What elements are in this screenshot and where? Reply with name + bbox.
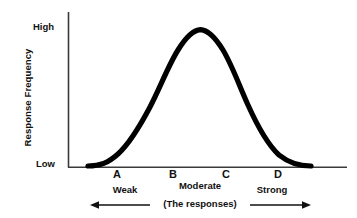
x-category-d: D: [263, 168, 293, 180]
y-tick-low: Low: [36, 158, 55, 169]
strength-label-strong: Strong: [237, 184, 307, 195]
strong-arrow: [243, 201, 311, 208]
x-axis-caption: (The responses): [150, 198, 250, 209]
y-axis-label: Response Frequency: [22, 23, 33, 173]
x-category-b: B: [158, 168, 188, 180]
x-category-a: A: [102, 168, 132, 180]
strength-label-weak: Weak: [90, 184, 160, 195]
bell-curve-figure: Response Frequency High Low A B C D Weak…: [0, 0, 357, 218]
strength-label-moderate: Moderate: [165, 180, 235, 191]
distribution-curve: [88, 30, 311, 166]
y-tick-high: High: [33, 21, 54, 32]
x-category-c: C: [211, 168, 241, 180]
weak-arrow: [90, 201, 152, 208]
